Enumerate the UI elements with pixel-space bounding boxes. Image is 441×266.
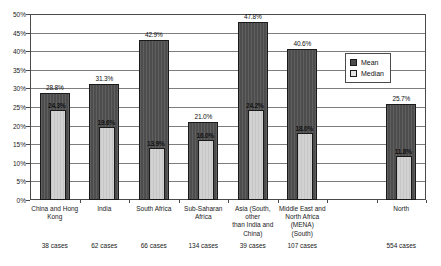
y-axis-tick-label: 15% [13, 141, 26, 148]
y-axis-tick-label: 40% [13, 48, 26, 55]
bar-value-label-mean: 47.8% [231, 13, 275, 20]
y-axis-tick-label: 10% [13, 159, 26, 166]
x-axis-case-count: 554 cases [371, 242, 433, 250]
y-axis-tick-label: 0% [17, 197, 26, 204]
y-axis-tick-label: 35% [13, 66, 26, 73]
bar-value-label-mean: 21.0% [181, 113, 225, 120]
bar-value-label-mean: 25.7% [379, 95, 423, 102]
x-axis: China and HongKong38 casesIndia62 casesS… [30, 200, 426, 266]
bar-median [149, 148, 165, 200]
bar-value-label-median: 18.0% [282, 125, 326, 132]
bar-median [99, 127, 115, 200]
median-swatch-icon [350, 70, 357, 77]
x-axis-tick-mark [327, 200, 328, 203]
x-axis-tick-mark [278, 200, 279, 203]
x-axis-tick-mark [426, 200, 427, 203]
y-axis-tick-label: 50% [13, 11, 26, 18]
bar-value-label-mean: 31.3% [82, 75, 126, 82]
bar-value-label-median: 16.0% [183, 132, 227, 139]
x-axis-category-label: North [371, 205, 433, 213]
legend-item-mean: Mean [350, 57, 384, 68]
bar-value-label-median: 24.3% [35, 102, 79, 109]
bar-value-label-median: 13.9% [134, 140, 178, 147]
bar-median [50, 110, 66, 200]
bar-value-label-median: 11.8% [381, 148, 425, 155]
bar-value-label-median: 24.2% [233, 102, 277, 109]
y-axis: 0%5%10%15%20%25%30%35%40%45%50% [0, 0, 30, 201]
bar-median [297, 133, 313, 200]
y-axis-tick-label: 5% [17, 178, 26, 185]
x-axis-case-count: 107 cases [272, 242, 334, 250]
x-axis-tick-mark [80, 200, 81, 203]
legend-item-median: Median [350, 68, 384, 79]
x-axis-tick-mark [129, 200, 130, 203]
mean-swatch-icon [350, 59, 357, 66]
y-axis-tick-label: 25% [13, 104, 26, 111]
legend-label-mean: Mean [361, 59, 379, 67]
y-axis-tick-label: 30% [13, 85, 26, 92]
bar-value-label-mean: 42.9% [132, 31, 176, 38]
x-axis-tick-mark [377, 200, 378, 203]
bar-median [248, 110, 264, 200]
bar-value-label-median: 19.6% [84, 119, 128, 126]
legend-label-median: Median [361, 70, 384, 78]
bar-value-label-mean: 40.6% [280, 40, 324, 47]
x-axis-tick-mark [179, 200, 180, 203]
x-axis-tick-mark [228, 200, 229, 203]
bar-median [396, 156, 412, 200]
y-axis-tick-label: 45% [13, 29, 26, 36]
x-axis-category-label: Middle East andNorth Africa(MENA)(South) [272, 205, 334, 238]
chart-legend: Mean Median [345, 53, 391, 83]
y-axis-tick-label: 20% [13, 122, 26, 129]
bar-value-label-mean: 28.8% [33, 84, 77, 91]
bar-chart: 0%5%10%15%20%25%30%35%40%45%50% 28.8%24.… [0, 0, 441, 266]
bars-layer: 28.8%24.3%31.3%19.6%42.9%13.9%21.0%16.0%… [30, 14, 426, 200]
bar-median [198, 140, 214, 200]
